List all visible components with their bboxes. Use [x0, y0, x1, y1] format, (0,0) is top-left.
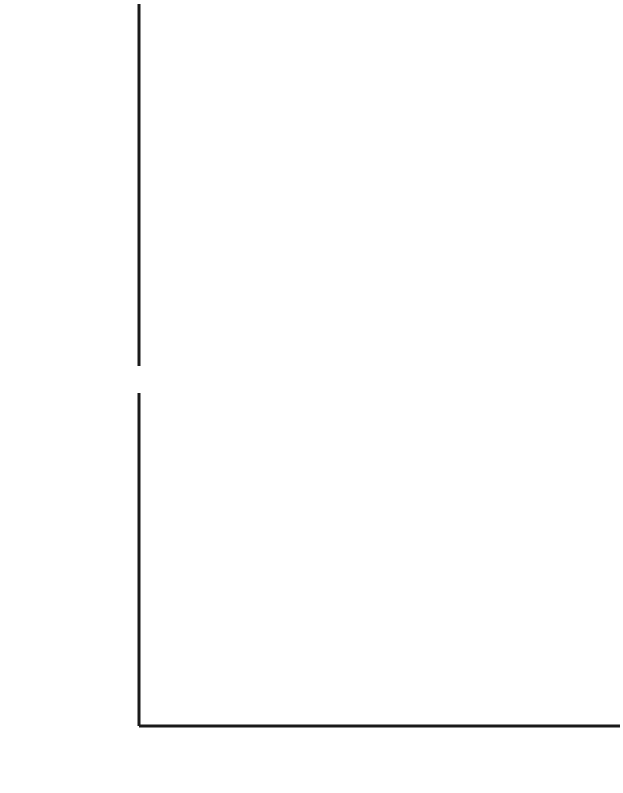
- area-panel: [139, 393, 620, 726]
- daisyworld-figure: [0, 0, 623, 793]
- figure-canvas: [0, 0, 623, 793]
